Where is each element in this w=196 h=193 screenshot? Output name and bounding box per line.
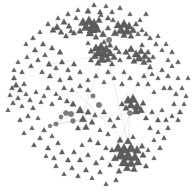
graph-node-circle[interactable] <box>54 122 59 127</box>
graph-node-circle[interactable] <box>91 94 96 99</box>
graph-node-circle[interactable] <box>127 110 132 115</box>
graph-node-circle[interactable] <box>59 115 63 119</box>
graph-node-circle[interactable] <box>96 102 102 108</box>
graph-node-circle[interactable] <box>106 37 112 43</box>
graph-node-circle[interactable] <box>71 119 76 124</box>
graph-node-circle[interactable] <box>48 124 52 128</box>
graph-node-circle[interactable] <box>68 111 74 117</box>
network-graph-canvas <box>0 0 196 193</box>
graph-node-circle[interactable] <box>63 110 68 115</box>
network-graph-figure <box>0 0 196 193</box>
